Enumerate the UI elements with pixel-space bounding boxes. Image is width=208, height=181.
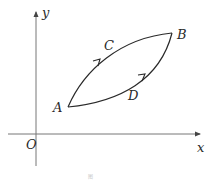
x-axis-label: x: [197, 141, 204, 154]
figure-caption: 图: [88, 172, 93, 179]
point-c-label: C: [104, 39, 114, 52]
point-a-label: A: [53, 101, 62, 114]
origin-label: O: [26, 138, 37, 151]
point-d-label: D: [128, 89, 138, 102]
upper-curve-acb: [68, 33, 172, 107]
lower-curve-arrow-icon: [138, 74, 145, 81]
point-b-label: B: [177, 28, 187, 41]
y-axis-label: y: [42, 6, 49, 19]
lower-curve-adb: [68, 33, 172, 107]
